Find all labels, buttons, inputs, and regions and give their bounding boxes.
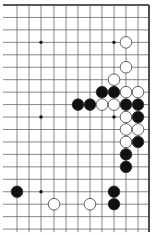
white-stone	[120, 111, 132, 123]
white-stone	[48, 198, 60, 210]
white-stone	[108, 99, 120, 111]
white-stone	[96, 99, 108, 111]
black-stone	[108, 198, 120, 210]
white-stone	[120, 61, 132, 73]
black-stone	[108, 186, 120, 198]
black-stone	[120, 149, 132, 161]
black-stone	[132, 136, 144, 148]
black-stone	[11, 186, 23, 198]
black-stone	[120, 99, 132, 111]
white-stone	[120, 86, 132, 98]
white-stone	[120, 124, 132, 136]
go-board	[0, 0, 158, 235]
star-point	[112, 41, 115, 44]
black-stone	[84, 99, 96, 111]
black-stone	[120, 161, 132, 173]
black-stone	[132, 111, 144, 123]
black-stone	[96, 86, 108, 98]
black-stone	[72, 99, 84, 111]
black-stone	[132, 99, 144, 111]
star-point	[39, 190, 42, 193]
white-stone	[108, 74, 120, 86]
white-stone	[120, 136, 132, 148]
white-stone	[84, 198, 96, 210]
white-stone	[120, 37, 132, 49]
star-point	[39, 41, 42, 44]
stones	[11, 37, 144, 210]
black-stone	[108, 86, 120, 98]
star-point	[112, 115, 115, 118]
star-point	[39, 115, 42, 118]
white-stone	[132, 86, 144, 98]
white-stone	[132, 124, 144, 136]
